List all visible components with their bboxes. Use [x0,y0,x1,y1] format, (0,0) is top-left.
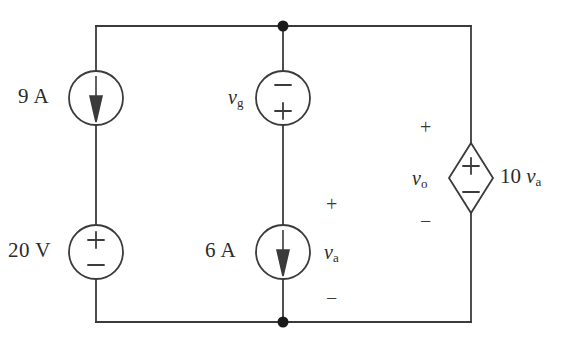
label-vg: vg [228,87,243,109]
node-dot-top [278,21,289,32]
label-6a: 6 A [205,240,236,261]
label-dependent-source-value: 10 va [500,166,541,188]
label-20v: 20 V [8,240,51,261]
polarity-plus-va: + [326,194,337,214]
label-dependent-coefficient: 10 [500,164,526,188]
polarity-minus-vo: − [420,211,431,231]
source-symbol-dependent-diamond [449,143,493,213]
polarity-vg [275,85,291,119]
polarity-20v [88,232,104,265]
polarity-minus-va: − [326,288,337,308]
label-dependent-variable-symbol: v [526,164,535,188]
label-dependent-variable: va [526,164,541,188]
polarity-dependent-source [463,158,479,192]
label-dependent-variable-subscript: a [536,174,542,189]
arrow-9a-down [90,76,102,122]
label-va: va [324,242,339,264]
polarity-plus-vo: + [420,117,431,137]
circuit-diagram-figure: 9 A 20 V vg 6 A + va − + vo − 10 va [0,0,561,346]
label-vo-subscript: o [421,176,428,191]
label-vo: vo [412,168,427,190]
label-vo-symbol: v [412,167,421,189]
label-vg-symbol: v [228,86,237,108]
circuit-schematic-svg [0,0,561,346]
label-9a: 9 A [18,86,49,107]
label-va-symbol: v [324,241,333,263]
arrow-6a-down [277,230,289,276]
label-va-subscript: a [333,250,339,265]
label-vg-subscript: g [237,95,244,110]
node-dot-bottom [278,317,289,328]
